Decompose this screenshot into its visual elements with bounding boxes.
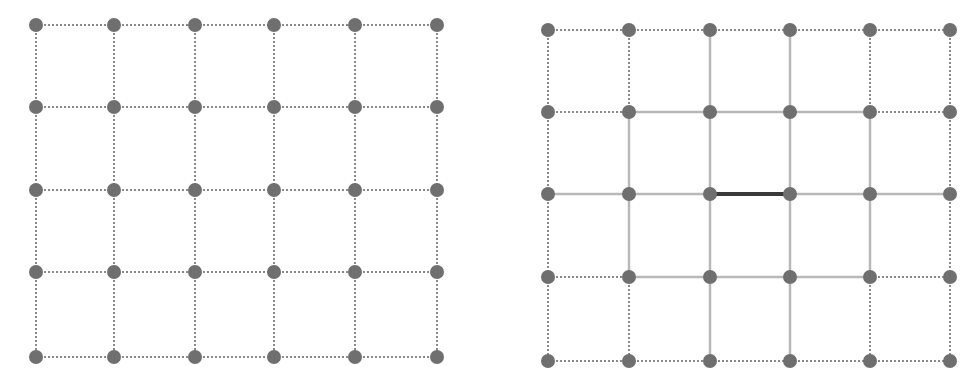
grid-node: [943, 270, 957, 284]
grid-node: [348, 265, 362, 279]
grid-node: [541, 187, 555, 201]
grid-node: [267, 183, 281, 197]
grid-node: [622, 187, 636, 201]
grid-node: [267, 18, 281, 32]
grid-node: [107, 100, 121, 114]
grid-node: [703, 270, 717, 284]
left-grid: [29, 18, 444, 364]
grid-node: [541, 105, 555, 119]
grid-node: [267, 265, 281, 279]
grid-node: [863, 187, 877, 201]
right-grid: [541, 23, 957, 368]
grid-node: [188, 183, 202, 197]
grid-node: [430, 350, 444, 364]
grid-node: [703, 23, 717, 37]
grid-node: [783, 23, 797, 37]
grid-node: [188, 100, 202, 114]
grid-node: [348, 18, 362, 32]
grid-node: [863, 23, 877, 37]
grid-node: [107, 18, 121, 32]
grid-node: [703, 187, 717, 201]
grid-node: [622, 105, 636, 119]
grid-node: [348, 100, 362, 114]
grid-node: [783, 105, 797, 119]
grid-node: [943, 354, 957, 368]
grid-node: [541, 270, 555, 284]
grid-node: [541, 23, 555, 37]
grid-node: [430, 18, 444, 32]
grid-node: [267, 350, 281, 364]
grid-node: [943, 187, 957, 201]
grid-node: [430, 100, 444, 114]
grid-node: [348, 183, 362, 197]
grid-node: [430, 183, 444, 197]
grid-node: [348, 350, 362, 364]
grid-node: [188, 18, 202, 32]
grid-node: [107, 350, 121, 364]
grid-node: [29, 183, 43, 197]
grid-node: [188, 350, 202, 364]
grid-node: [107, 183, 121, 197]
grid-node: [783, 270, 797, 284]
grid-node: [863, 270, 877, 284]
grid-node: [943, 23, 957, 37]
grid-node: [622, 270, 636, 284]
grid-node: [783, 354, 797, 368]
grid-node: [29, 100, 43, 114]
grid-node: [863, 105, 877, 119]
grid-node: [430, 265, 444, 279]
grid-node: [943, 105, 957, 119]
grid-node: [188, 265, 202, 279]
grid-node: [703, 354, 717, 368]
grid-node: [29, 265, 43, 279]
grid-node: [107, 265, 121, 279]
grid-graph-diagram: [0, 0, 975, 380]
grid-node: [29, 350, 43, 364]
grid-node: [541, 354, 555, 368]
grid-node: [29, 18, 43, 32]
grid-node: [703, 105, 717, 119]
grid-node: [267, 100, 281, 114]
grid-node: [622, 354, 636, 368]
grid-node: [783, 187, 797, 201]
grid-node: [622, 23, 636, 37]
grid-node: [863, 354, 877, 368]
